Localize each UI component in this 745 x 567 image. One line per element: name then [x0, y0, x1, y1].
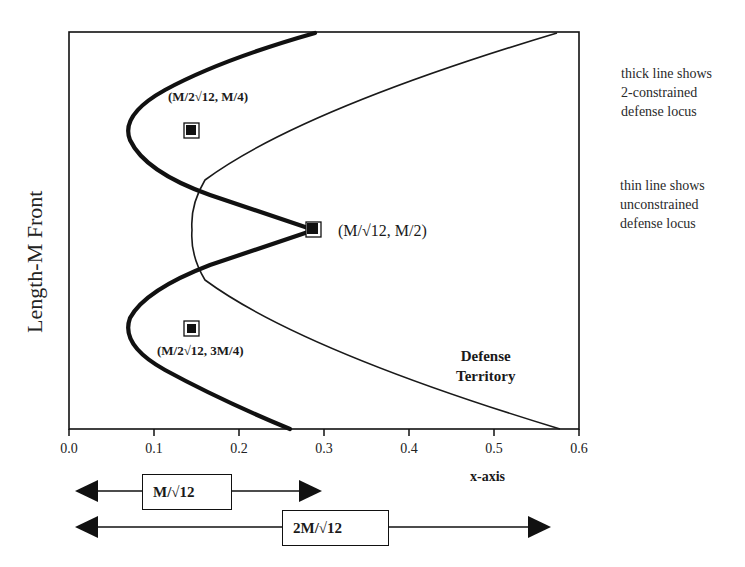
x-tick-label: 0.3 — [315, 441, 333, 457]
point-marker-upper — [184, 123, 199, 138]
legend-text: unconstrained — [620, 195, 705, 214]
short-dimension-box: M/√12 — [142, 474, 232, 510]
x-tick-label: 0.0 — [60, 441, 78, 457]
x-tick-label: 0.2 — [230, 441, 248, 457]
x-tick-label: 0.6 — [570, 441, 588, 457]
legend-text: thin line shows — [620, 176, 705, 195]
point-marker-middle — [306, 222, 321, 237]
legend-text: defense locus — [621, 102, 712, 121]
long-dimension-box: 2M/√12 — [282, 510, 389, 546]
legend-text: thick line shows — [621, 64, 712, 83]
y-axis-label: Length-M Front — [22, 191, 48, 333]
x-tick-label: 0.1 — [145, 441, 163, 457]
legend-text: defense locus — [620, 214, 705, 233]
thin-line-legend: thin line shows unconstrained defense lo… — [620, 176, 705, 233]
x-tick-label: 0.5 — [485, 441, 503, 457]
x-ticks — [69, 429, 579, 436]
point-label-upper: (M/2√12, M/4) — [168, 89, 248, 105]
defense-territory-line1: Defense — [456, 346, 515, 366]
legend-text: 2-constrained — [621, 83, 712, 102]
defense-territory-line2: Territory — [456, 366, 515, 386]
point-label-middle: (M/√12, M/2) — [338, 222, 427, 240]
x-axis-label: x-axis — [470, 469, 505, 485]
x-tick-label: 0.4 — [400, 441, 418, 457]
defense-territory-label: Defense Territory — [456, 346, 515, 386]
point-marker-lower — [184, 321, 199, 336]
constrained-locus-lower-curve — [128, 230, 314, 429]
thick-line-legend: thick line shows 2-constrained defense l… — [621, 64, 712, 121]
point-label-lower: (M/2√12, 3M/4) — [157, 343, 244, 359]
